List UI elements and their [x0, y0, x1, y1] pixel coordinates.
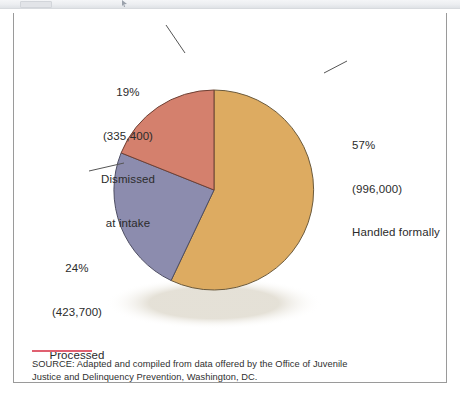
pie-label-text-line1: Handled formally — [352, 225, 460, 240]
pie-label-percent: 24% — [22, 261, 132, 276]
chrome-chip — [20, 1, 52, 8]
source-accent-rule — [32, 350, 92, 352]
pie-label-handled-formally: 57% (996,000) Handled formally — [352, 109, 460, 269]
pie-label-text-line1: Dismissed — [74, 172, 182, 187]
source-note-block: SOURCE: Adapted and compiled from data o… — [32, 350, 362, 384]
pie-label-percent: 19% — [74, 85, 182, 100]
pie-label-dismissed-at-intake: 19% (335,400) Dismissed at intake — [74, 56, 182, 259]
leader-line-dismissed — [166, 25, 185, 53]
pie-label-count: (335,400) — [74, 129, 182, 144]
figure-container: 19% (335,400) Dismissed at intake 24% (4… — [13, 13, 447, 383]
source-note-text: SOURCE: Adapted and compiled from data o… — [32, 358, 362, 384]
pie-label-count: (996,000) — [352, 182, 460, 197]
pie-label-count: (423,700) — [22, 305, 132, 320]
pie-chart-area: 19% (335,400) Dismissed at intake 24% (4… — [14, 13, 448, 333]
app-chrome-strip — [0, 0, 460, 9]
leader-line-handled — [324, 61, 347, 73]
pie-label-percent: 57% — [352, 138, 460, 153]
pie-label-text-line2: at intake — [74, 216, 182, 231]
mouse-cursor-icon — [122, 0, 127, 7]
